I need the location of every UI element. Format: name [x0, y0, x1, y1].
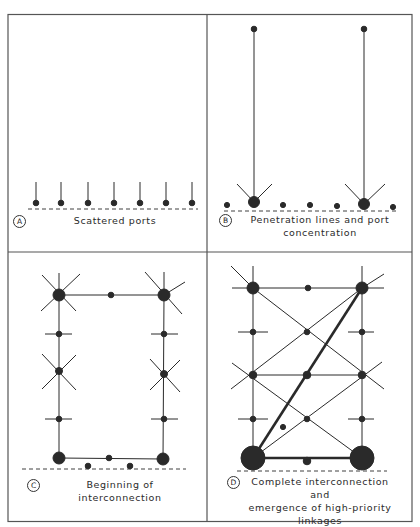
- panel-c-badge: C: [27, 479, 40, 492]
- port-node: [189, 200, 195, 206]
- major-port: [157, 453, 169, 465]
- panel-c-interconnection: [22, 272, 186, 469]
- port-node: [111, 200, 117, 206]
- panel-a-scattered-ports: [28, 182, 198, 209]
- panel-a-badge: A: [13, 215, 26, 228]
- panel-b-caption: Penetration lines and port concentration: [240, 213, 400, 239]
- panel-d-complete-interconnection: [231, 266, 387, 471]
- panel-b-badge: B: [219, 214, 232, 227]
- port-node: [58, 200, 64, 206]
- caption-line: Scattered ports: [50, 214, 180, 227]
- caption-line: Complete interconnection and: [240, 475, 400, 501]
- major-port: [356, 282, 368, 294]
- major-port: [247, 282, 259, 294]
- panel-frame: [8, 15, 412, 522]
- caption-line: linkages: [240, 514, 400, 527]
- caption-line: concentration: [240, 226, 400, 239]
- major-port: [249, 197, 260, 208]
- panel-b-penetration-lines: [224, 26, 398, 211]
- major-port: [158, 289, 170, 301]
- panel-a-caption: Scattered ports: [50, 214, 180, 227]
- major-port: [53, 452, 65, 464]
- major-port: [350, 446, 374, 470]
- port-node: [137, 200, 143, 206]
- major-port: [359, 199, 370, 210]
- panel-d-badge: D: [227, 476, 240, 489]
- major-port: [53, 289, 65, 301]
- port-node: [33, 200, 39, 206]
- caption-line: emergence of high-priority: [240, 501, 400, 514]
- panel-d-caption: Complete interconnection and emergence o…: [240, 475, 400, 527]
- caption-line: Beginning of interconnection: [45, 478, 195, 504]
- major-port: [241, 446, 265, 470]
- caption-line: Penetration lines and port: [240, 213, 400, 226]
- port-node: [163, 200, 169, 206]
- port-node: [85, 200, 91, 206]
- panel-c-caption: Beginning of interconnection: [45, 478, 195, 504]
